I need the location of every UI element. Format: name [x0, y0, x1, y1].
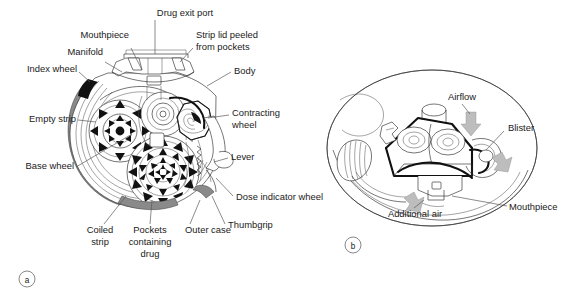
frame-window — [150, 133, 164, 147]
label-base-wheel: Base wheel — [26, 160, 74, 171]
mouthpiece-port — [432, 182, 441, 189]
label-outer-case: Outer case — [185, 224, 231, 235]
inhaler-figure: Drug exit port Mouthpiece Strip lid peel… — [0, 0, 573, 302]
label-drug-exit-port: Drug exit port — [157, 7, 214, 18]
label-pockets-line1: Pockets — [133, 224, 167, 235]
label-mouthpiece: Mouthpiece — [81, 29, 129, 40]
used-blister-bubble — [479, 150, 493, 162]
label-thumbgrip: Thumbgrip — [228, 219, 273, 230]
panel-marker-b-text: b — [351, 242, 356, 251]
label-additional-air: Additional air — [388, 208, 442, 219]
panel-b-drawing — [327, 70, 537, 226]
label-pockets-line3: drug — [141, 248, 160, 259]
label-pockets-line2: containing — [129, 236, 172, 247]
blister-pocket-right — [431, 129, 465, 155]
label-strip-lid-line2: from pockets — [196, 41, 250, 52]
base-wheel-axle — [160, 111, 166, 117]
blister-pocket-left — [397, 127, 431, 153]
dose-wheel-hub — [159, 168, 167, 176]
drug-exit-port-mouth — [147, 76, 161, 85]
label-empty-strip: Empty strip — [29, 113, 76, 124]
label-lever: Lever — [231, 151, 254, 162]
label-dose-indicator-wheel: Dose indicator wheel — [236, 191, 323, 202]
label-strip-lid-line1: Strip lid peeled — [196, 29, 258, 40]
label-body: Body — [234, 65, 256, 76]
label-airflow: Airflow — [448, 91, 476, 102]
figure-root: Drug exit port Mouthpiece Strip lid peel… — [0, 0, 573, 302]
label-index-wheel: Index wheel — [27, 63, 77, 74]
coiled-strip-axle — [116, 127, 125, 136]
chimney-top — [422, 104, 446, 116]
panel-marker-a-text: a — [25, 276, 30, 285]
label-mouthpiece-b: Mouthpiece — [509, 201, 557, 212]
label-contracting-line1: Contracting — [232, 107, 280, 118]
label-coiled-line1: Coiled — [87, 224, 114, 235]
label-blister: Blister — [508, 122, 534, 133]
label-contracting-line2: wheel — [231, 119, 257, 130]
label-manifold: Manifold — [68, 46, 103, 57]
label-coiled-line2: strip — [91, 236, 109, 247]
